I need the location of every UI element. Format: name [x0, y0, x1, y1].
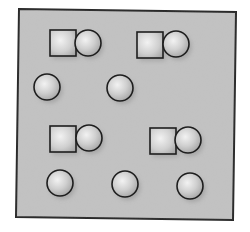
molecule-1	[50, 30, 101, 56]
molecule-4	[150, 127, 201, 154]
atom-1	[34, 74, 60, 100]
round-atom	[163, 31, 189, 57]
molecule-2	[137, 31, 189, 58]
atom-3	[47, 170, 73, 196]
round-atom	[175, 127, 201, 153]
molecule-3	[50, 125, 102, 152]
round-atom	[76, 125, 102, 151]
round-atom	[112, 171, 138, 197]
round-atom	[107, 75, 133, 101]
round-atom	[34, 74, 60, 100]
square-atom	[150, 128, 176, 154]
atom-2	[107, 75, 133, 101]
square-atom	[137, 32, 163, 58]
square-atom	[50, 30, 76, 56]
round-atom	[177, 173, 203, 199]
atom-4	[112, 171, 138, 197]
square-atom	[50, 126, 76, 152]
atom-5	[177, 173, 203, 199]
round-atom	[47, 170, 73, 196]
round-atom	[75, 30, 101, 56]
particle-diagram	[0, 0, 250, 232]
